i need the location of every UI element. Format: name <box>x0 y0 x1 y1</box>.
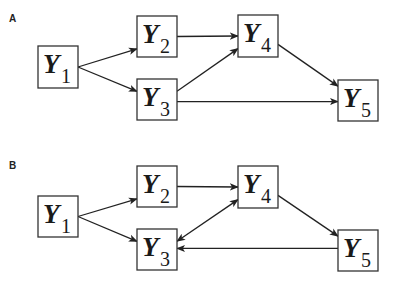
node-letter: Y <box>43 49 62 79</box>
node-letter: Y <box>243 169 262 199</box>
node-subscript: 3 <box>160 248 170 270</box>
node-y2-panel-b: Y2 <box>137 166 177 207</box>
nodes-layer: Y1Y2Y3Y4Y5Y1Y2Y3Y4Y5 <box>38 15 378 271</box>
node-letter: Y <box>142 169 161 199</box>
node-subscript: 1 <box>61 215 71 237</box>
node-subscript: 3 <box>160 98 170 120</box>
edge-y2-y4-arrow <box>177 187 238 188</box>
edge-y1-y2-arrow <box>78 199 137 217</box>
node-y1-panel-a: Y1 <box>38 46 78 88</box>
node-y3-panel-a: Y3 <box>137 79 177 120</box>
node-y2-panel-a: Y2 <box>137 16 177 57</box>
edge-y4-y5-arrow <box>278 44 338 86</box>
edge-y4-y5-arrow <box>278 195 338 236</box>
edge-y3-y4-arrow <box>177 49 238 92</box>
node-subscript: 2 <box>160 35 170 57</box>
edge-y3-y4-bidirected-arrow <box>177 200 238 242</box>
node-y4-panel-b: Y4 <box>238 166 278 208</box>
node-y4-panel-a: Y4 <box>238 15 278 57</box>
node-y1-panel-b: Y1 <box>38 196 78 237</box>
edges-layer <box>78 36 338 248</box>
edge-y1-y2-arrow <box>78 49 137 67</box>
edge-y1-y3-arrow <box>78 217 137 242</box>
edge-y1-y3-arrow <box>78 67 137 91</box>
node-letter: Y <box>142 232 161 262</box>
node-subscript: 4 <box>261 34 271 56</box>
node-subscript: 5 <box>361 249 371 271</box>
node-letter: Y <box>243 18 262 48</box>
node-letter: Y <box>142 82 161 112</box>
node-letter: Y <box>43 199 62 229</box>
node-letter: Y <box>343 233 362 263</box>
node-subscript: 4 <box>261 185 271 207</box>
edge-y2-y4-arrow <box>177 36 238 37</box>
node-y5-panel-b: Y5 <box>338 230 378 271</box>
node-y5-panel-a: Y5 <box>338 80 378 121</box>
node-subscript: 2 <box>160 185 170 207</box>
node-subscript: 1 <box>61 65 71 87</box>
node-letter: Y <box>343 83 362 113</box>
node-subscript: 5 <box>361 99 371 121</box>
node-letter: Y <box>142 19 161 49</box>
node-y3-panel-b: Y3 <box>137 229 177 270</box>
path-diagram: Y1Y2Y3Y4Y5Y1Y2Y3Y4Y5 <box>0 0 394 286</box>
